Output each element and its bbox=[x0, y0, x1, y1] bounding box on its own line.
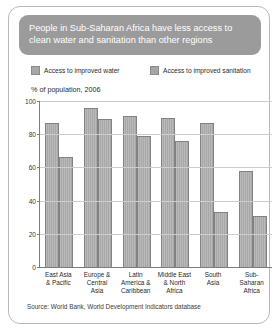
y-axis-tick-mark bbox=[37, 167, 40, 168]
source-note: Source: World Bank, World Development In… bbox=[27, 303, 201, 310]
x-axis-label: Sub- Saharan Africa bbox=[232, 269, 271, 296]
bar-groups bbox=[40, 101, 272, 267]
bar-sanitation bbox=[59, 157, 73, 267]
bar-group bbox=[195, 101, 234, 267]
y-axis-tick-mark bbox=[37, 267, 40, 268]
x-axis-label: Middle East & North Africa bbox=[155, 269, 194, 296]
bar-group bbox=[233, 101, 272, 267]
gridline bbox=[40, 134, 272, 135]
chart-card: People in Sub-Saharan Africa have less a… bbox=[8, 6, 270, 324]
bar-group bbox=[79, 101, 118, 267]
bar-sanitation bbox=[253, 216, 267, 267]
x-axis-label: Europe & Central Asia bbox=[78, 269, 117, 296]
bar-water bbox=[45, 123, 59, 267]
plot-area-wrapper: 020406080100 East Asia & PacificEurope &… bbox=[9, 7, 271, 325]
bar-water bbox=[239, 171, 253, 267]
bar-sanitation bbox=[98, 119, 112, 267]
bar-water bbox=[84, 108, 98, 267]
plot-area: 020406080100 bbox=[39, 101, 272, 268]
y-axis-tick-mark bbox=[37, 134, 40, 135]
bar-group bbox=[156, 101, 195, 267]
x-axis-label: East Asia & Pacific bbox=[39, 269, 78, 296]
gridline bbox=[40, 167, 272, 168]
bar-sanitation bbox=[214, 212, 228, 267]
gridline bbox=[40, 201, 272, 202]
bar-water bbox=[161, 118, 175, 267]
bar-group bbox=[117, 101, 156, 267]
bar-sanitation bbox=[175, 141, 189, 267]
x-axis-labels: East Asia & PacificEurope & Central Asia… bbox=[39, 269, 271, 296]
bar-group bbox=[40, 101, 79, 267]
gridline bbox=[40, 101, 272, 102]
bar-water bbox=[123, 116, 137, 267]
x-axis-label: South Asia bbox=[194, 269, 233, 296]
x-axis-label: Latin America & Caribbean bbox=[116, 269, 155, 296]
gridline bbox=[40, 234, 272, 235]
y-axis-tick-mark bbox=[37, 234, 40, 235]
y-axis-tick-mark bbox=[37, 201, 40, 202]
divider bbox=[19, 295, 261, 296]
y-axis-tick-mark bbox=[37, 101, 40, 102]
bar-water bbox=[200, 123, 214, 267]
